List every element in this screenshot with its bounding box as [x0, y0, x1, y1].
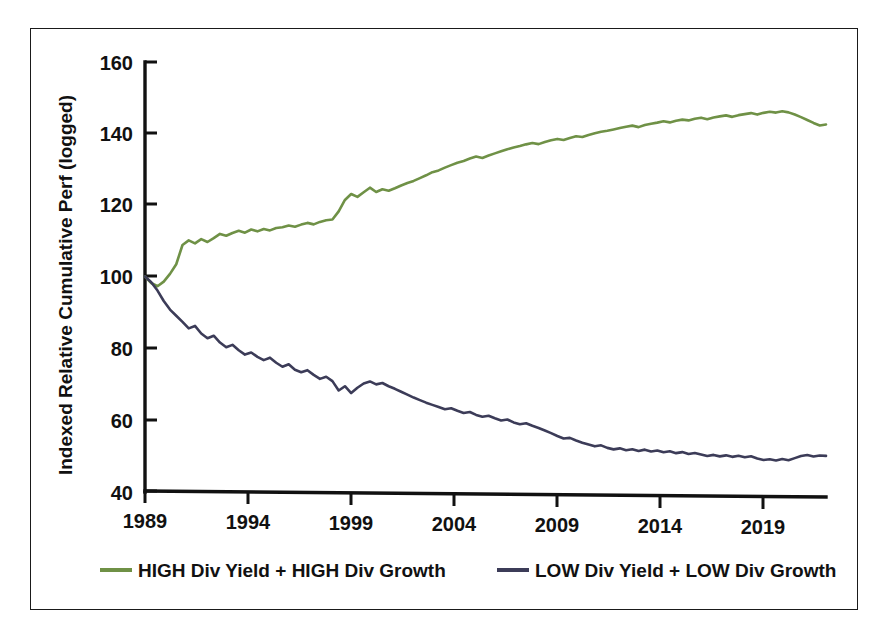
line-chart: Indexed Relative Cumulative Perf (logged…	[0, 0, 890, 635]
x-tick-label: 2009	[535, 514, 580, 536]
y-tick-label: 120	[100, 194, 133, 216]
series-line-low-div	[145, 277, 826, 461]
legend-label-low-div: LOW Div Yield + LOW Div Growth	[535, 560, 836, 581]
y-tick-label: 40	[111, 482, 133, 504]
x-tick-label: 1989	[123, 510, 168, 532]
y-tick-label: 140	[100, 123, 133, 145]
x-tick-label: 2004	[432, 513, 477, 535]
series-line-high-div	[145, 111, 826, 286]
x-tick-label: 2019	[741, 516, 786, 538]
chart-container: Indexed Relative Cumulative Perf (logged…	[0, 0, 890, 635]
y-tick-label: 160	[100, 52, 133, 74]
y-tick-label: 100	[100, 266, 133, 288]
y-tick-label: 60	[111, 410, 133, 432]
chart-legend: HIGH Div Yield + HIGH Div Growth LOW Div…	[100, 560, 836, 581]
y-axis-title: Indexed Relative Cumulative Perf (logged…	[55, 95, 76, 475]
x-tick-label: 1994	[226, 511, 271, 533]
x-tick-label: 1999	[329, 512, 374, 534]
legend-label-high-div: HIGH Div Yield + HIGH Div Growth	[138, 560, 446, 581]
x-tick-label: 2014	[638, 515, 683, 537]
x-axis-tick-labels: 1989 1994 1999 2004 2009 2014 2019	[123, 510, 786, 538]
y-axis-tick-labels: 160 140 120 100 80 60 40	[100, 52, 133, 504]
y-tick-label: 80	[111, 338, 133, 360]
